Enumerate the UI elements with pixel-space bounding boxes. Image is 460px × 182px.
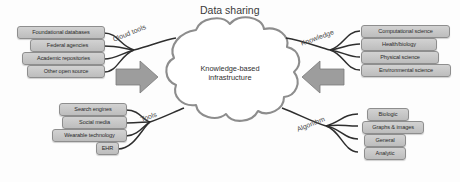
diagram-title: Data sharing bbox=[200, 4, 260, 16]
node-computational-science[interactable]: Computational science bbox=[361, 25, 450, 38]
node-ehr[interactable]: EHR bbox=[96, 142, 119, 155]
node-biologic[interactable]: Biologic bbox=[367, 108, 409, 121]
node-federal-agencies[interactable]: Federal agencies bbox=[30, 39, 105, 52]
node-academic-repositories[interactable]: Academic repositories bbox=[22, 52, 105, 65]
node-health-biology[interactable]: Health/biology bbox=[361, 38, 437, 51]
node-search-engines[interactable]: Search engines bbox=[59, 103, 127, 116]
node-analytic[interactable]: Analytic bbox=[364, 147, 406, 160]
node-environmental-science[interactable]: Environmental science bbox=[361, 64, 451, 77]
connectors-bottom-right bbox=[282, 108, 358, 152]
arrow-left-inbound bbox=[116, 61, 158, 93]
node-foundational-databases[interactable]: Foundational databases bbox=[17, 26, 105, 39]
node-graphs-and-images[interactable]: Graphs & images bbox=[362, 121, 424, 134]
node-wearable-technology[interactable]: Wearable technology bbox=[52, 129, 127, 142]
node-social-media[interactable]: Social media bbox=[62, 116, 127, 129]
diagram-canvas: Data sharing Knowledge-based infrastruct… bbox=[0, 0, 460, 182]
node-general[interactable]: General bbox=[364, 134, 406, 147]
cloud-center-label: Knowledge-based infrastructure bbox=[170, 64, 290, 83]
arrow-right-outbound bbox=[302, 61, 344, 93]
node-other-open-source[interactable]: Other open source bbox=[27, 65, 105, 78]
node-physical-science[interactable]: Physical science bbox=[361, 51, 439, 64]
